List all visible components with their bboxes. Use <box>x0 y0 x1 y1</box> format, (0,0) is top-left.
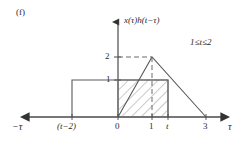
range-annotation: 1≤t≤2 <box>190 38 211 47</box>
x-tick-label-t: t <box>166 122 169 131</box>
panel-label: (f) <box>16 8 25 17</box>
x-tick-label-t-minus-2: (t−2) <box>57 122 76 131</box>
x-tick-label-1: 1 <box>149 122 154 131</box>
x-tick-label-0: 0 <box>115 122 120 131</box>
x-axis-label-right: τ <box>228 122 232 132</box>
y-tick-label-2: 2 <box>105 52 110 61</box>
x-tick-label-3: 3 <box>203 122 208 131</box>
x-axis-label-left: −τ <box>12 122 22 132</box>
y-tick-label-1: 1 <box>106 75 111 84</box>
overlap-shaded-region <box>118 80 168 117</box>
convolution-figure: (f) x(τ)h(t−τ) 1≤t≤2 2 1 (t−2) 0 1 t 3 −… <box>0 0 250 145</box>
y-axis-title: x(τ)h(t−τ) <box>124 16 160 25</box>
